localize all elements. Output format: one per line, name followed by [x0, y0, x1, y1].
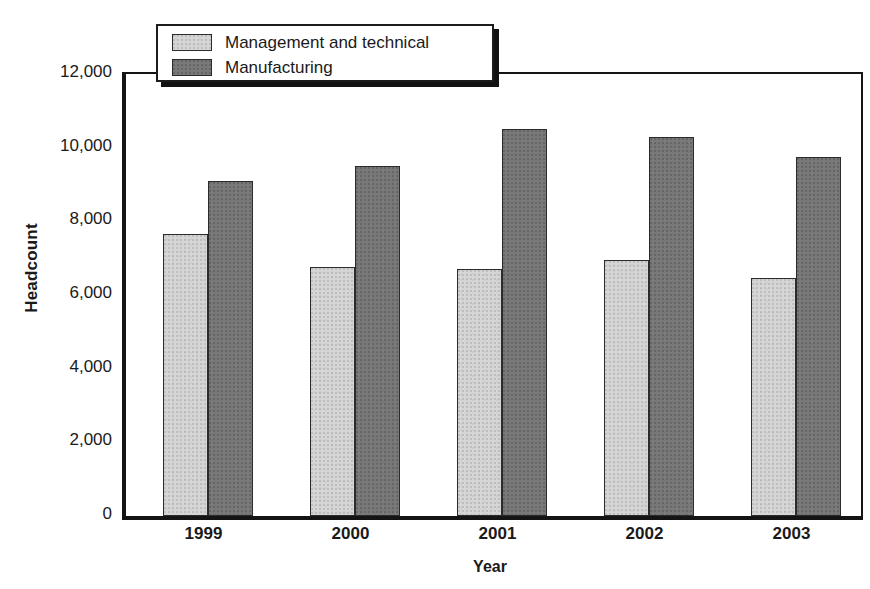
legend-item-label: Management and technical — [225, 34, 429, 51]
bar — [649, 137, 694, 516]
y-axis-tick-label: 2,000 — [8, 431, 112, 448]
bar-chart-figure: Headcount 02,0004,0006,0008,00010,00012,… — [0, 0, 870, 589]
bar — [457, 269, 502, 516]
x-axis-tick-label: 2001 — [433, 524, 563, 544]
y-axis-tick-label: 0 — [8, 505, 112, 522]
x-axis-tick-label: 2000 — [286, 524, 416, 544]
legend-item-manufacturing: Manufacturing — [172, 56, 492, 79]
bar — [796, 157, 841, 516]
y-axis-tick-label: 12,000 — [8, 63, 112, 80]
x-axis-title: Year — [120, 558, 860, 576]
dark-gray-swatch — [172, 59, 212, 76]
bar — [604, 260, 649, 516]
bar — [163, 234, 208, 516]
legend-item-label: Manufacturing — [225, 59, 333, 76]
y-axis-tick-label: 6,000 — [8, 284, 112, 301]
light-gray-swatch — [172, 34, 212, 51]
bar — [310, 267, 355, 516]
x-axis-tick-label: 2003 — [727, 524, 857, 544]
legend-item-management-and-technical: Management and technical — [172, 31, 492, 54]
y-axis-tick-label: 10,000 — [8, 137, 112, 154]
bar — [208, 181, 253, 516]
y-axis-tick-label: 8,000 — [8, 210, 112, 227]
bar — [502, 129, 547, 516]
bar — [751, 278, 796, 516]
bar — [355, 166, 400, 516]
plot-area — [122, 72, 863, 520]
x-axis-tick-label: 2002 — [580, 524, 710, 544]
chart-legend: Management and technical Manufacturing — [156, 24, 494, 82]
x-axis-tick-label: 1999 — [139, 524, 269, 544]
y-axis-tick-label: 4,000 — [8, 358, 112, 375]
